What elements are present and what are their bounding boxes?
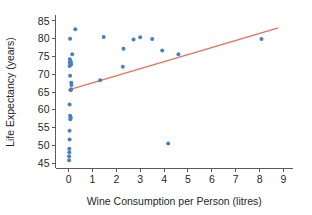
y-tick-label: 50 [38, 139, 50, 151]
data-point [68, 74, 72, 78]
data-point [259, 37, 263, 41]
x-axis-tick-labels: 0123456789 [66, 173, 287, 185]
x-tick-label: 2 [113, 173, 119, 185]
x-tick-label: 4 [161, 173, 167, 185]
data-point [132, 37, 136, 41]
data-point [67, 158, 71, 162]
data-point [67, 150, 71, 154]
data-point [68, 138, 72, 142]
y-tick-label: 70 [38, 68, 50, 80]
y-axis-title: Life Expectancy (years) [4, 37, 16, 147]
x-tick-label: 0 [66, 173, 72, 185]
x-tick-label: 9 [281, 173, 287, 185]
y-tick-label: 65 [38, 86, 50, 98]
data-point [67, 154, 71, 158]
x-tick-label: 1 [90, 173, 96, 185]
y-tick-label: 45 [38, 157, 50, 169]
data-point [150, 37, 154, 41]
data-point [102, 35, 106, 39]
data-point [122, 47, 126, 51]
data-point [98, 78, 102, 82]
data-point [69, 81, 73, 85]
data-point [176, 52, 180, 56]
data-point [68, 57, 72, 61]
x-axis-tick-marks [69, 168, 284, 172]
data-point [67, 147, 71, 151]
x-tick-label: 6 [209, 173, 215, 185]
data-point [160, 48, 164, 52]
y-axis-tick-marks [52, 21, 56, 163]
data-point [70, 52, 74, 56]
y-tick-label: 55 [38, 121, 50, 133]
y-tick-label: 75 [38, 50, 50, 62]
data-point [68, 37, 72, 41]
x-axis-title: Wine Consumption per Person (litres) [87, 195, 262, 207]
data-point [68, 102, 72, 106]
y-tick-label: 85 [38, 15, 50, 27]
data-point-group [67, 27, 263, 162]
y-tick-label: 80 [38, 32, 50, 44]
x-tick-label: 8 [257, 173, 263, 185]
data-point [69, 87, 73, 91]
y-axis-tick-labels: 455055606570758085 [38, 15, 50, 169]
x-tick-label: 3 [137, 173, 143, 185]
x-tick-label: 7 [233, 173, 239, 185]
x-tick-label: 5 [185, 173, 191, 185]
chart-canvas: 455055606570758085 0123456789 Wine Consu… [0, 0, 312, 215]
data-point [121, 65, 125, 69]
data-point [68, 114, 72, 118]
data-point [68, 129, 72, 133]
scatter-chart: 455055606570758085 0123456789 Wine Consu… [0, 0, 312, 215]
data-point [138, 35, 142, 39]
y-tick-label: 60 [38, 103, 50, 115]
data-point [166, 142, 170, 146]
data-point [73, 27, 77, 31]
